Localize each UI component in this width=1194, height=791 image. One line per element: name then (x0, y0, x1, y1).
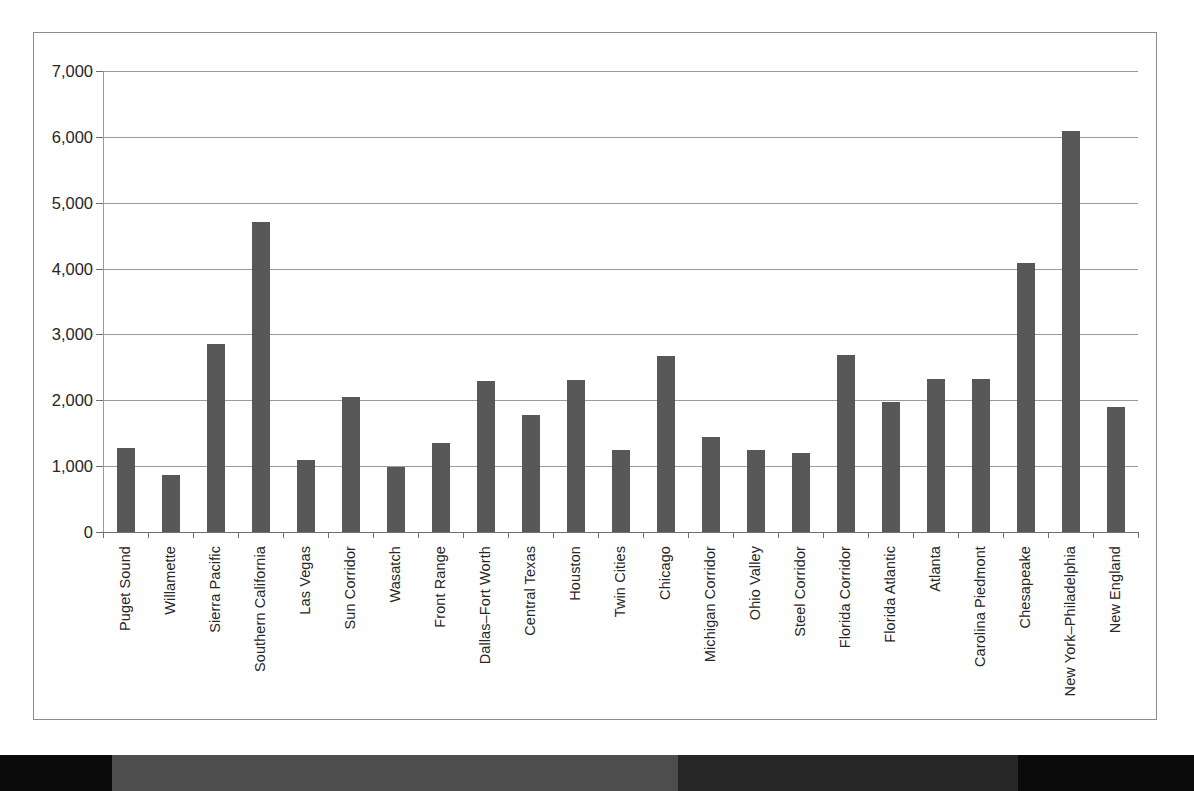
x-axis-tick-mark (283, 532, 284, 538)
bar (702, 437, 720, 532)
x-axis-tick-mark (868, 532, 869, 538)
x-axis-tick-mark (328, 532, 329, 538)
bar (252, 222, 270, 532)
bar (342, 397, 360, 532)
x-axis-tick-mark (418, 532, 419, 538)
y-axis-tick-label: 4,000 (15, 259, 93, 278)
bars-layer (103, 71, 1138, 532)
x-axis-tick-mark (733, 532, 734, 538)
bar (162, 475, 180, 532)
x-axis-tick-mark (238, 532, 239, 538)
x-axis-category-label: New England (1108, 546, 1123, 633)
x-axis-category-label: Carolina Piedmont (973, 546, 988, 667)
x-axis-category-label: Chicago (658, 546, 673, 600)
x-axis-category-label: Ohio Valley (748, 546, 763, 620)
y-axis-tick-mark (96, 334, 103, 335)
y-axis-tick-label: 3,000 (15, 325, 93, 344)
bar (792, 453, 810, 532)
x-axis-tick-mark (103, 532, 104, 538)
bar (477, 381, 495, 532)
x-axis-category-label: Central Texas (523, 546, 538, 636)
y-axis-tick-mark (96, 71, 103, 72)
y-axis-tick-label: 7,000 (15, 62, 93, 81)
page-bottom-strip (0, 755, 1194, 791)
x-axis-tick-mark (1048, 532, 1049, 538)
x-axis-tick-mark (598, 532, 599, 538)
x-axis-tick-mark (643, 532, 644, 538)
bar (522, 415, 540, 532)
x-axis-tick-mark (1093, 532, 1094, 538)
y-axis-tick-label: 5,000 (15, 193, 93, 212)
y-axis-tick-label: 1,000 (15, 457, 93, 476)
x-axis-tick-mark (958, 532, 959, 538)
x-axis-line (103, 532, 1138, 533)
bar (117, 448, 135, 532)
y-axis-tick-mark (96, 400, 103, 401)
x-axis-tick-mark (193, 532, 194, 538)
bar (1017, 263, 1035, 532)
x-axis-category-label: Twin Cities (613, 546, 628, 617)
page-canvas: 01,0002,0003,0004,0005,0006,0007,000 Pug… (0, 0, 1194, 791)
x-axis-category-label: Puget Sound (118, 546, 133, 631)
x-axis-tick-mark (1138, 532, 1139, 538)
x-axis-category-label: Wasatch (388, 546, 403, 603)
bar (657, 356, 675, 532)
x-axis-category-label: Willamette (163, 546, 178, 615)
x-axis-category-label: Sierra Pacific (208, 546, 223, 633)
y-axis-tick-mark (96, 203, 103, 204)
bar (1107, 407, 1125, 532)
y-axis-tick-mark (96, 269, 103, 270)
bar (612, 450, 630, 532)
x-axis-tick-mark (463, 532, 464, 538)
x-axis-category-label: Houston (568, 546, 583, 601)
x-axis-category-label: Florida Corridor (838, 546, 853, 648)
x-axis-tick-mark (913, 532, 914, 538)
x-axis-category-label: Steel Corridor (793, 546, 808, 637)
y-axis-tick-label: 2,000 (15, 391, 93, 410)
x-axis-tick-mark (823, 532, 824, 538)
y-axis-tick-mark (96, 466, 103, 467)
x-axis-tick-mark (553, 532, 554, 538)
x-axis-tick-mark (148, 532, 149, 538)
x-axis-category-label: Chesapeake (1018, 546, 1033, 628)
bar (567, 380, 585, 532)
x-axis-tick-mark (778, 532, 779, 538)
x-axis-category-label: Front Range (433, 546, 448, 628)
y-axis-tick-mark (96, 137, 103, 138)
x-axis-tick-mark (1003, 532, 1004, 538)
x-axis-category-label: Las Vegas (298, 546, 313, 615)
y-axis-tick-label: 6,000 (15, 127, 93, 146)
x-axis-category-label: New York–Philadelphia (1063, 546, 1078, 696)
x-axis-category-label: Florida Atlantic (883, 546, 898, 643)
page-bottom-strip-light-block (112, 755, 678, 791)
x-axis-tick-mark (373, 532, 374, 538)
x-axis-category-label: Dallas–Fort Worth (478, 546, 493, 664)
y-axis-tick-label: 0 (15, 523, 93, 542)
y-axis-tick-mark (96, 532, 103, 533)
bar (1062, 131, 1080, 532)
bar (297, 460, 315, 532)
x-axis-category-label: Sun Corridor (343, 546, 358, 629)
bar (837, 355, 855, 532)
bar (882, 402, 900, 532)
x-axis-tick-mark (688, 532, 689, 538)
bar (432, 443, 450, 532)
x-axis-category-label: Southern California (253, 546, 268, 672)
bar (747, 450, 765, 532)
x-axis-tick-mark (508, 532, 509, 538)
x-axis-category-label: Atlanta (928, 546, 943, 592)
bar (927, 379, 945, 532)
bar (387, 467, 405, 532)
x-axis-category-label: Michigan Corridor (703, 546, 718, 662)
bar (972, 379, 990, 532)
page-bottom-strip-dark-block (678, 755, 1018, 791)
bar (207, 344, 225, 532)
